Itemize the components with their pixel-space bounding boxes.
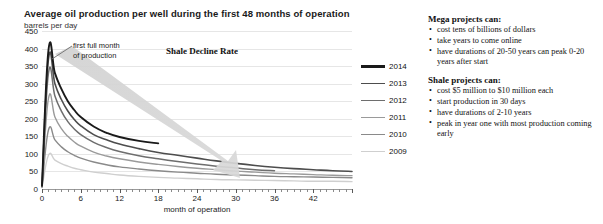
x-axis-tick-label: 36 [270,194,279,203]
y-axis-tick-label: 400 [25,44,38,53]
x-axis-tick-mark [203,189,204,192]
x-axis-tick-mark [229,189,230,192]
x-axis-tick-mark [81,189,82,193]
x-axis-tick-mark [262,189,263,192]
x-axis-tick-label: 0 [40,194,44,203]
x-axis-title: month of operation [42,205,352,214]
mega-projects-item: cost tens of billions of dollars [428,25,600,35]
x-axis-tick-mark [145,189,146,192]
x-axis-tick-label: 42 [309,194,318,203]
legend-item-2010[interactable]: 2010 [361,126,407,143]
x-axis-tick-mark [275,189,276,193]
x-axis-tick-label: 6 [79,194,83,203]
x-axis-tick-mark [139,189,140,192]
legend-label: 2014 [389,62,407,71]
y-axis-tick-label: 250 [25,97,38,106]
legend-label: 2013 [389,79,407,88]
x-axis-tick-mark [74,189,75,192]
x-axis-tick-mark [307,189,308,192]
x-axis-tick-mark [68,189,69,192]
shale-projects-item: cost $5 million to $10 million each [428,86,600,96]
chart-figure: Average oil production per well during t… [0,0,603,224]
x-axis-tick-mark [223,189,224,192]
legend-label: 2011 [389,113,406,122]
annotation-first-full-month-line2: of production [73,51,120,61]
legend-label: 2010 [389,130,407,139]
x-axis-tick-label: 24 [193,194,202,203]
x-axis-tick-mark [300,189,301,192]
legend-item-2013[interactable]: 2013 [361,75,407,92]
legend-swatch-2011 [361,117,385,119]
x-axis-tick-mark [61,189,62,192]
annotation-shale-decline-rate: Shale Decline Rate [166,46,238,56]
annotation-first-full-month-line1: first full month [73,41,120,51]
x-axis-tick-mark [249,189,250,192]
x-axis-tick-label: 12 [115,194,124,203]
x-axis-tick-mark [42,189,43,193]
y-axis-tick-label: 100 [25,149,38,158]
mega-projects-heading: Mega projects can: [428,14,600,24]
x-axis-tick-mark [255,189,256,192]
x-axis-tick-mark [87,189,88,192]
y-axis-tick-label: 150 [25,132,38,141]
y-axis-tick-label: 200 [25,114,38,123]
chart-title: Average oil production per well during t… [24,8,350,19]
x-axis-tick-mark [294,189,295,192]
x-axis-tick-mark [55,189,56,192]
x-axis-tick-mark [171,189,172,192]
y-axis-tick-label: 300 [25,79,38,88]
x-axis-tick-mark [94,189,95,192]
x-axis-tick-mark [313,189,314,193]
shale-projects-item: start production in 30 days [428,97,600,107]
legend-item-2011[interactable]: 2011 [361,109,407,126]
x-axis-tick-mark [333,189,334,192]
x-axis-tick-mark [268,189,269,192]
x-axis-tick-mark [352,189,353,193]
mega-projects-list: cost tens of billions of dollarstake yea… [428,25,600,67]
y-axis-tick-label: 350 [25,62,38,71]
legend-label: 2012 [389,96,407,105]
legend-item-2009[interactable]: 2009 [361,143,407,160]
annotation-first-full-month: first full month of production [73,41,120,60]
x-axis-tick-mark [100,189,101,192]
x-axis-tick-mark [152,189,153,192]
x-axis-tick-mark [184,189,185,192]
x-axis-tick-mark [346,189,347,192]
x-axis-tick-mark [48,189,49,192]
shale-projects-list: cost $5 million to $10 million eachstart… [428,86,600,139]
x-axis-tick-mark [216,189,217,192]
legend-swatch-2012 [361,100,385,102]
legend-swatch-2009 [361,151,385,153]
x-axis-tick-mark [191,189,192,192]
y-axis-tick-label: 50 [29,167,38,176]
x-axis-tick-mark [132,189,133,192]
x-axis-tick-mark [197,189,198,193]
shale-projects-item: peak in year one with most production co… [428,119,600,140]
x-axis-tick-mark [126,189,127,192]
x-axis-tick-mark [120,189,121,193]
x-axis-tick-mark [210,189,211,192]
legend-item-2014[interactable]: 2014 [361,58,407,75]
x-axis-tick-label: 18 [154,194,163,203]
side-notes: Mega projects can: cost tens of billions… [428,14,600,147]
legend-swatch-2010 [361,134,385,136]
mega-projects-item: take years to come online [428,36,600,46]
x-axis-tick-mark [242,189,243,192]
x-axis-tick-mark [107,189,108,192]
x-axis-tick-mark [281,189,282,192]
series-line-2013 [42,52,352,186]
legend-swatch-2013 [361,83,385,85]
x-axis-tick-mark [178,189,179,192]
x-axis-tick-mark [326,189,327,192]
x-axis-tick-mark [320,189,321,192]
x-axis-tick-label: 30 [231,194,240,203]
y-axis-tick-label: 450 [25,27,38,36]
legend-item-2012[interactable]: 2012 [361,92,407,109]
y-axis-tick-label: 0 [34,185,38,194]
shale-projects-item: have durations of 2-10 years [428,108,600,118]
legend: 201420132012201120102009 [361,58,407,160]
x-axis-tick-mark [158,189,159,193]
x-axis-tick-mark [113,189,114,192]
x-axis-tick-mark [287,189,288,192]
x-axis-tick-mark [339,189,340,192]
